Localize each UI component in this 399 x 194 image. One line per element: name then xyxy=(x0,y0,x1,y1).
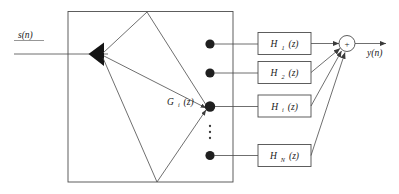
block-diagram-canvas: + s(n) y(n) G i (z) H 1 (z) H 2 (z) H i xyxy=(0,0,399,194)
input-signal-label: s(n) xyxy=(18,30,33,41)
vertical-ellipsis-dot xyxy=(209,125,211,127)
filter-label-1: H 1 (z) xyxy=(270,33,299,52)
gain-label-gi: G i (z) xyxy=(167,91,194,110)
filter-label-i-base: H xyxy=(270,102,279,112)
filter-label-1-subscript: 1 xyxy=(281,44,284,51)
output-signal-label: y(n) xyxy=(366,48,382,59)
filter-label-n-subscript: N xyxy=(280,156,286,163)
internal-line-top-left xyxy=(103,12,147,53)
arrow-filteri-to-summer xyxy=(311,51,342,106)
subband-node-1 xyxy=(205,39,214,48)
filter-label-n-tail: (z) xyxy=(289,151,299,162)
internal-line-bottom-right xyxy=(157,110,206,182)
filter-label-2: H 2 (z) xyxy=(270,62,299,81)
filter-label-i-tail: (z) xyxy=(288,102,298,113)
filter-label-1-tail: (z) xyxy=(288,39,298,50)
vertical-ellipsis-dot xyxy=(209,131,211,133)
filter-label-n-base: H xyxy=(269,151,278,161)
filter-label-2-subscript: 2 xyxy=(281,73,284,80)
filter-label-1-base: H xyxy=(270,39,279,49)
gain-label-base: G xyxy=(167,97,174,107)
gain-label-subscript: i xyxy=(178,101,180,108)
subband-node-2 xyxy=(205,68,214,77)
filter-label-i: H i (z) xyxy=(270,96,298,115)
input-splitter-arrowhead xyxy=(89,43,105,67)
diagram-svg: + s(n) y(n) G i (z) H 1 (z) H 2 (z) H i xyxy=(0,0,399,194)
filter-label-2-base: H xyxy=(270,68,279,78)
gain-label-tail: (z) xyxy=(184,97,194,108)
subband-node-n xyxy=(205,151,214,160)
arrow-filter2-to-summer xyxy=(311,49,340,73)
filter-label-2-tail: (z) xyxy=(288,68,298,79)
subband-node-i xyxy=(205,101,215,111)
internal-line-bottom-left xyxy=(103,58,157,182)
vertical-ellipsis-dot xyxy=(209,137,211,139)
summing-junction-operator: + xyxy=(344,39,349,49)
filter-label-n: H N (z) xyxy=(269,145,299,164)
filter-label-i-subscript: i xyxy=(282,106,284,113)
